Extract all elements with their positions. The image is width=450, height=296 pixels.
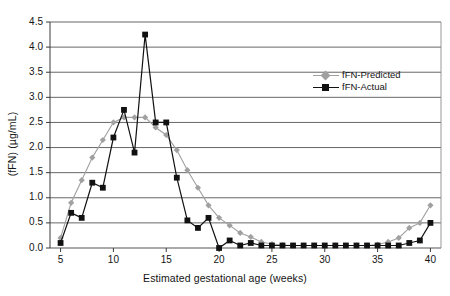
data-point-square [216, 245, 222, 251]
y-tick-label: 4.5 [17, 16, 43, 27]
y-tick-label: 0.0 [17, 242, 43, 253]
data-point-square [163, 120, 169, 126]
legend-label-predicted: fFN-Predicted [339, 69, 401, 81]
data-point-square [332, 243, 338, 249]
data-point-square [100, 185, 106, 191]
y-tick-label: 4.0 [17, 41, 43, 52]
x-tick-label: 5 [48, 254, 74, 265]
y-axis-ticks [46, 22, 50, 248]
data-point-square [354, 243, 360, 249]
data-point-square [237, 243, 243, 249]
square-marker-icon [322, 84, 329, 91]
x-tick-label: 20 [206, 254, 232, 265]
series-ffn-actual [58, 32, 434, 251]
legend-item-predicted: fFN-Predicted [313, 69, 401, 81]
data-point-diamond [131, 114, 137, 120]
x-tick-label: 30 [312, 254, 338, 265]
legend-label-actual: fFN-Actual [339, 81, 387, 93]
data-point-square [258, 243, 264, 249]
x-tick-label: 25 [259, 254, 285, 265]
legend-item-actual: fFN-Actual [313, 81, 401, 93]
y-tick-label: 1.5 [17, 166, 43, 177]
x-tick-label: 40 [417, 254, 443, 265]
data-point-square [406, 240, 412, 246]
data-point-square [184, 217, 190, 223]
data-point-square [248, 240, 254, 246]
data-point-diamond [100, 137, 106, 143]
data-point-square [79, 215, 85, 221]
data-point-square [227, 238, 233, 244]
data-point-diamond [79, 177, 85, 183]
data-point-square [89, 180, 95, 186]
data-point-square [375, 243, 381, 249]
data-point-diamond [195, 185, 201, 191]
data-point-square [417, 238, 423, 244]
y-tick-label: 1.0 [17, 191, 43, 202]
chart-legend: fFN-Predicted fFN-Actual [313, 69, 401, 93]
data-point-diamond [417, 220, 423, 226]
data-point-square [385, 243, 391, 249]
data-point-square [153, 120, 159, 126]
data-point-square [195, 225, 201, 231]
data-point-square [68, 210, 74, 216]
data-point-square [121, 107, 127, 113]
x-tick-label: 35 [365, 254, 391, 265]
chart-container: Estimated gestational age (weeks) (fFN) … [0, 0, 450, 296]
plot-frame [50, 22, 441, 248]
data-point-square [206, 215, 212, 221]
data-point-square [322, 243, 328, 249]
data-point-diamond [89, 155, 95, 161]
chart-plot-area [0, 0, 450, 296]
legend-swatch-actual [313, 81, 339, 93]
data-point-square [58, 240, 64, 246]
x-axis-title: Estimated gestational age (weeks) [0, 272, 450, 284]
data-point-square [301, 243, 307, 249]
data-point-square [132, 150, 138, 156]
data-point-square [311, 243, 317, 249]
data-point-diamond [68, 200, 74, 206]
series-ffn-predicted [57, 114, 433, 248]
legend-swatch-predicted [313, 69, 339, 81]
diamond-marker-icon [321, 70, 331, 80]
data-point-square [142, 32, 148, 38]
series-line [61, 35, 431, 248]
data-point-square [290, 243, 296, 249]
x-tick-label: 15 [153, 254, 179, 265]
y-tick-label: 2.5 [17, 116, 43, 127]
data-point-square [364, 243, 370, 249]
x-tick-label: 10 [100, 254, 126, 265]
y-tick-label: 3.5 [17, 66, 43, 77]
y-tick-label: 3.0 [17, 91, 43, 102]
data-point-diamond [110, 119, 116, 125]
data-point-diamond [427, 202, 433, 208]
y-tick-label: 2.0 [17, 141, 43, 152]
data-point-square [428, 220, 434, 226]
data-point-square [111, 135, 117, 141]
gridlines [50, 22, 441, 248]
y-tick-label: 0.5 [17, 216, 43, 227]
x-axis-ticks [61, 248, 431, 252]
data-point-diamond [248, 234, 254, 240]
data-point-square [280, 243, 286, 249]
data-point-square [343, 243, 349, 249]
data-point-square [396, 243, 402, 249]
data-point-square [174, 175, 180, 181]
data-point-square [269, 243, 275, 249]
